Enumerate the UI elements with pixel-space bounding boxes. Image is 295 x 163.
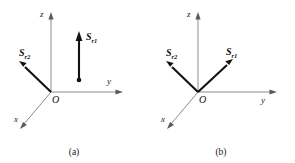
figure-root: z y x O Sr1 Sr2 (a) — [0, 0, 295, 163]
y-axis-label: y — [261, 96, 265, 105]
vector-s-r1-index: 1 — [94, 37, 97, 44]
panel-a-caption: (a) — [0, 148, 148, 158]
vector-s-r2-label: Sr2 — [19, 48, 30, 61]
y-axis-label: y — [107, 77, 111, 86]
vector-s-r1-base-dot — [77, 78, 82, 83]
vector-s-r1-shaft — [198, 65, 227, 92]
panel-a: z y x O Sr1 Sr2 (a) — [0, 0, 148, 163]
x-axis-label: x — [14, 115, 18, 124]
z-axis-label: z — [40, 10, 44, 19]
z-axis-label: z — [187, 10, 191, 19]
panel-b-caption: (b) — [147, 148, 295, 158]
vector-s-r1-label: Sr1 — [226, 47, 237, 60]
vector-s-r2-index: 2 — [174, 53, 177, 60]
x-axis-arrowhead — [20, 122, 27, 129]
origin-label: O — [52, 95, 59, 105]
vector-s-r2-index: 2 — [27, 53, 30, 60]
vector-s-r2-label: Sr2 — [166, 48, 177, 61]
panel-b: z y x O Sr1 Sr2 (b) — [147, 0, 295, 163]
panel-a-diagram — [0, 0, 148, 140]
vector-s-r2-shaft — [172, 67, 198, 92]
x-axis-arrowhead — [167, 122, 174, 129]
vector-s-r1-index: 1 — [234, 52, 237, 59]
vector-s-r2-arrowhead — [19, 61, 27, 67]
x-axis-label: x — [161, 115, 165, 124]
vector-s-r2-shaft — [25, 67, 51, 92]
vector-s-r1-arrowhead — [225, 59, 233, 65]
panel-b-diagram — [147, 0, 295, 140]
vector-s-r2-arrowhead — [166, 61, 174, 67]
vector-s-r1-label: Sr1 — [86, 32, 97, 45]
z-axis-arrowhead — [48, 12, 53, 20]
z-axis-arrowhead — [195, 12, 200, 20]
x-axis-line — [171, 92, 198, 124]
vector-s-r1-arrowhead — [76, 31, 83, 41]
y-axis-arrowhead — [270, 89, 278, 94]
x-axis-line — [24, 92, 51, 124]
origin-label: O — [199, 95, 206, 105]
y-axis-arrowhead — [116, 89, 124, 94]
